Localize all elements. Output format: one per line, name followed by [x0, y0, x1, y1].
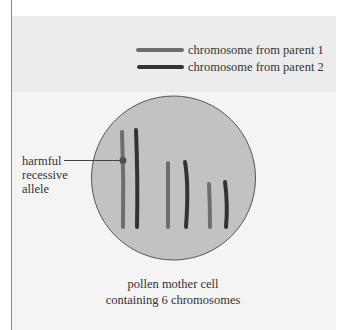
- caption-line-2: containing 6 chromosomes: [106, 293, 241, 307]
- pollen-cell-diagram: chromosome from parent 1 chromosome from…: [0, 0, 352, 330]
- chromosome-1-parent-2: [136, 130, 137, 227]
- legend-label-parent-2: chromosome from parent 2: [188, 60, 324, 74]
- annotation-line-2: recessive: [22, 168, 68, 182]
- chromosome-3-parent-1: [209, 184, 210, 227]
- chromosome-2-parent-2: [185, 162, 187, 227]
- pollen-mother-cell: [92, 96, 256, 260]
- legend-label-parent-1: chromosome from parent 1: [188, 43, 324, 57]
- harmful-allele-marker: [120, 157, 127, 164]
- annotation-line-3: allele: [22, 182, 50, 196]
- chromosome-3-parent-2: [225, 182, 227, 227]
- cell-caption: pollen mother cell containing 6 chromoso…: [106, 277, 241, 307]
- chromosome-1-parent-1: [122, 132, 123, 227]
- caption-line-1: pollen mother cell: [128, 277, 219, 291]
- annotation-line-1: harmful: [22, 154, 62, 168]
- legend: chromosome from parent 1 chromosome from…: [138, 43, 324, 74]
